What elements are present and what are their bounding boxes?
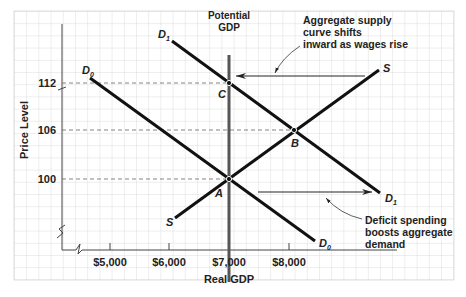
- potential-gdp-label-line2: GDP: [218, 22, 240, 33]
- point-b: [291, 127, 296, 132]
- x-tick-7000: $7,000: [212, 256, 246, 268]
- demand-note-line2: boosts aggregate: [365, 226, 453, 238]
- point-c-label: C: [218, 88, 227, 100]
- point-b-label: B: [291, 137, 299, 149]
- point-c: [226, 80, 231, 85]
- supply-note-line3: inward as wages rise: [303, 38, 408, 50]
- x-tick-8000: $8,000: [272, 256, 306, 268]
- potential-gdp-label-line1: Potential: [208, 10, 250, 21]
- supply-note-line1: Aggregate supply: [303, 14, 392, 26]
- y-axis-title: Price Level: [18, 101, 30, 159]
- supply-note-line2: curve shifts: [303, 26, 362, 38]
- y-tick-112: 112: [38, 77, 56, 89]
- demand-note-line3: demand: [365, 238, 405, 250]
- s-label-bottom: S: [166, 216, 174, 228]
- x-tick-5000: $5,000: [93, 256, 127, 268]
- x-axis-title: Real GDP: [204, 273, 254, 285]
- x-tick-6000: $6,000: [152, 256, 186, 268]
- point-a-label: A: [214, 187, 223, 199]
- y-tick-106: 106: [38, 124, 56, 136]
- s-label-top: S: [383, 62, 391, 74]
- y-tick-100: 100: [38, 173, 56, 185]
- chart: 112 106 100 $5,000 $6,000 $7,000 $8,000 …: [0, 0, 466, 297]
- point-a: [226, 176, 231, 181]
- demand-note-line1: Deficit spending: [365, 214, 447, 226]
